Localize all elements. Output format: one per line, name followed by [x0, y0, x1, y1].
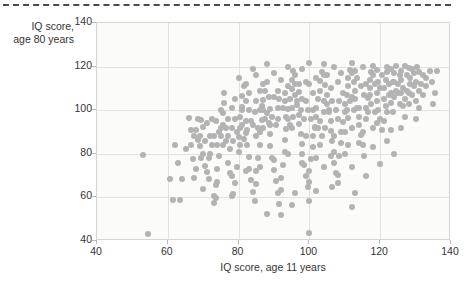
x-tick-mark — [96, 240, 97, 244]
y-tick-mark — [92, 66, 96, 67]
x-tick-label: 40 — [76, 245, 116, 257]
x-axis-title: IQ score, age 11 years — [96, 261, 450, 273]
x-tick-mark — [379, 240, 380, 244]
x-tick-mark — [450, 240, 451, 244]
x-tick-label: 80 — [218, 245, 258, 257]
y-tick-mark — [92, 153, 96, 154]
x-tick-mark — [238, 240, 239, 244]
x-tick-mark — [308, 240, 309, 244]
x-tick-label: 100 — [288, 245, 328, 257]
y-tick-mark — [92, 109, 96, 110]
y-tick-mark — [92, 22, 96, 23]
x-tick-mark — [167, 240, 168, 244]
y-tick-mark — [92, 196, 96, 197]
x-axis-ticks: 406080100120140 — [0, 0, 476, 288]
y-tick-mark — [92, 240, 96, 241]
x-tick-label: 140 — [430, 245, 470, 257]
x-tick-label: 120 — [359, 245, 399, 257]
scatter-plot-figure: IQ score, age 80 years 406080100120140 4… — [0, 0, 476, 288]
x-tick-label: 60 — [147, 245, 187, 257]
